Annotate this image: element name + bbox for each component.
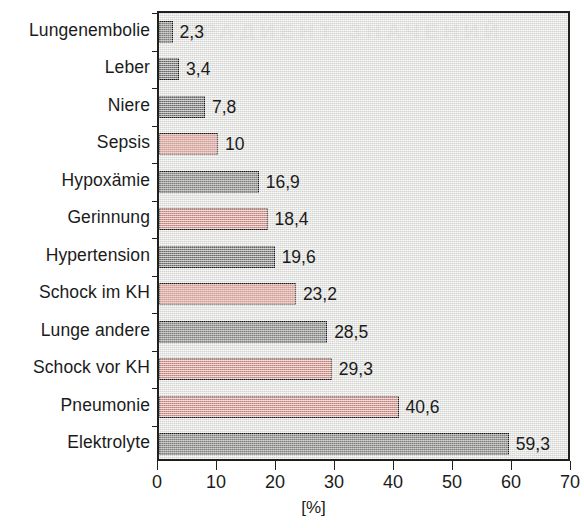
category-tick bbox=[152, 163, 159, 164]
value-axis-tick bbox=[570, 461, 571, 470]
category-label: Schock vor KH bbox=[0, 357, 150, 377]
bar bbox=[159, 96, 205, 118]
bar-value-label: 19,6 bbox=[282, 247, 316, 267]
value-axis-tick-labels: 010203040506070 bbox=[0, 470, 577, 496]
value-axis-tick bbox=[216, 461, 217, 470]
bar bbox=[159, 321, 327, 343]
category-label: Hypertension bbox=[0, 245, 150, 265]
category-label: Gerinnung bbox=[0, 207, 150, 227]
bar bbox=[159, 358, 332, 380]
bar bbox=[159, 21, 173, 43]
category-tick bbox=[152, 313, 159, 314]
category-tick bbox=[152, 276, 159, 277]
bar-value-label: 29,3 bbox=[339, 359, 373, 379]
value-axis-tick bbox=[452, 461, 453, 470]
bar-value-label: 3,4 bbox=[186, 59, 210, 79]
category-label: Hypoxämie bbox=[0, 170, 150, 190]
category-tick bbox=[152, 13, 159, 14]
value-axis-title: [%] bbox=[0, 497, 577, 519]
value-axis-tick-label: 70 bbox=[540, 470, 584, 494]
category-label: Sepsis bbox=[0, 132, 150, 152]
bar bbox=[159, 208, 268, 230]
background-ghost-text: ГРАДИЕНТ ЗНАЧЕНИЙ bbox=[185, 19, 515, 41]
category-label: Leber bbox=[0, 57, 150, 77]
bar-value-label: 2,3 bbox=[180, 22, 204, 42]
bar-value-label: 18,4 bbox=[275, 209, 309, 229]
value-axis-tick-label: 30 bbox=[304, 470, 364, 494]
bar-value-label: 7,8 bbox=[212, 97, 236, 117]
value-axis-tick bbox=[393, 461, 394, 470]
category-axis: LungenembolieLeberNiereSepsisHypoxämieGe… bbox=[0, 11, 150, 461]
bar-value-label: 28,5 bbox=[334, 322, 368, 342]
bar bbox=[159, 171, 259, 193]
value-axis-tick-label: 0 bbox=[127, 470, 187, 494]
bar-value-label: 23,2 bbox=[303, 284, 337, 304]
value-axis-tick-label: 60 bbox=[481, 470, 541, 494]
value-axis-tick-label: 20 bbox=[245, 470, 305, 494]
category-label: Elektrolyte bbox=[0, 432, 150, 452]
bar bbox=[159, 396, 399, 418]
bar-value-label: 40,6 bbox=[406, 397, 440, 417]
category-label: Pneumonie bbox=[0, 395, 150, 415]
bar bbox=[159, 246, 275, 268]
category-label: Schock im KH bbox=[0, 282, 150, 302]
value-axis-tick-label: 40 bbox=[363, 470, 423, 494]
category-tick bbox=[152, 426, 159, 427]
value-axis-tick bbox=[511, 461, 512, 470]
bar bbox=[159, 58, 179, 80]
category-label: Lungenembolie bbox=[0, 20, 150, 40]
bar-value-label: 10 bbox=[225, 134, 244, 154]
category-tick bbox=[152, 51, 159, 52]
value-axis-tick-label: 50 bbox=[422, 470, 482, 494]
bar bbox=[159, 433, 509, 455]
value-axis-tick-label: 10 bbox=[186, 470, 246, 494]
category-tick bbox=[152, 201, 159, 202]
category-tick bbox=[152, 388, 159, 389]
category-tick bbox=[152, 126, 159, 127]
value-axis-tick bbox=[157, 461, 158, 470]
category-label: Niere bbox=[0, 95, 150, 115]
value-axis-tick bbox=[334, 461, 335, 470]
value-axis-tick bbox=[275, 461, 276, 470]
category-tick bbox=[152, 238, 159, 239]
category-tick bbox=[152, 88, 159, 89]
category-label: Lunge andere bbox=[0, 320, 150, 340]
bar-value-label: 59,3 bbox=[516, 434, 550, 454]
bar bbox=[159, 133, 218, 155]
bar-value-label: 16,9 bbox=[266, 172, 300, 192]
category-tick bbox=[152, 351, 159, 352]
plot-area: ГРАДИЕНТ ЗНАЧЕНИЙ 2,33,47,81016,918,419,… bbox=[157, 11, 570, 461]
bar bbox=[159, 283, 296, 305]
